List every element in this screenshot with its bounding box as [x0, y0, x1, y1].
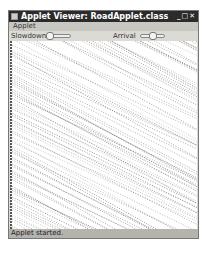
applet-viewer-window: Applet Viewer: RoadApplet.class _□✕ Appl… — [8, 10, 199, 239]
window-controls[interactable]: _□✕ — [177, 11, 196, 22]
space-time-diagram — [10, 41, 197, 229]
controls-panel: Slowdown Arrival — [9, 31, 198, 41]
arrival-slider[interactable] — [140, 34, 165, 38]
status-text: Applet started. — [11, 229, 63, 237]
window-title: Applet Viewer: RoadApplet.class — [21, 11, 168, 22]
maximize-icon[interactable]: □ — [182, 12, 190, 20]
menu-bar: Applet — [9, 22, 198, 31]
arrival-slider-thumb[interactable] — [149, 32, 157, 40]
close-icon[interactable]: ✕ — [189, 12, 196, 20]
arrival-label: Arrival — [113, 31, 136, 41]
slowdown-label: Slowdown — [11, 31, 46, 41]
slowdown-slider[interactable] — [46, 34, 71, 38]
menu-applet[interactable]: Applet — [13, 22, 36, 30]
slowdown-slider-thumb[interactable] — [46, 32, 54, 40]
traffic-canvas — [10, 41, 197, 229]
status-bar: Applet started. — [9, 229, 198, 238]
title-bar[interactable]: Applet Viewer: RoadApplet.class _□✕ — [9, 11, 198, 22]
app-icon — [11, 13, 18, 20]
